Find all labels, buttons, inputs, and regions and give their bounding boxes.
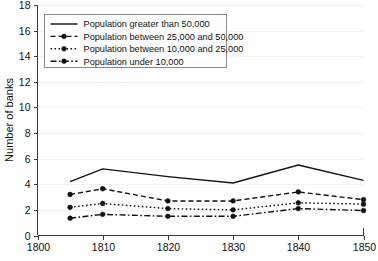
y-tick-label: 14 <box>19 50 31 62</box>
data-series-group <box>68 165 366 221</box>
data-point <box>296 190 301 195</box>
legend-label: Population between 25,000 and 50,000 <box>84 32 244 42</box>
y-tick-label: 4 <box>25 178 31 190</box>
data-point <box>361 202 366 207</box>
y-tick-label: 16 <box>19 25 31 37</box>
x-tick-label: 1830 <box>222 241 246 253</box>
line-chart: 024681012141618 180018101820183018401850… <box>0 0 378 261</box>
series-line <box>70 189 363 201</box>
chart-container: 024681012141618 180018101820183018401850… <box>0 0 378 261</box>
y-tick-label: 6 <box>25 153 31 165</box>
y-tick-label: 12 <box>19 76 31 88</box>
x-tick-label: 1800 <box>27 241 51 253</box>
series-line <box>70 165 363 183</box>
x-tick-label: 1820 <box>157 241 181 253</box>
legend-label: Population under 10,000 <box>84 57 184 67</box>
x-tick-label: 1840 <box>287 241 311 253</box>
y-tick-label: 2 <box>25 204 31 216</box>
data-point <box>166 206 171 211</box>
data-point <box>296 200 301 205</box>
data-point <box>68 216 73 221</box>
data-point <box>100 186 105 191</box>
data-point <box>68 205 73 210</box>
x-axis-ticks: 180018101820183018401850 <box>27 236 377 253</box>
data-point <box>100 212 105 217</box>
series-2 <box>68 186 366 203</box>
y-tick-label: 10 <box>19 101 31 113</box>
chart-legend: Population greater than 50,000Population… <box>45 15 244 68</box>
y-tick-label: 18 <box>19 0 31 11</box>
data-point <box>166 214 171 219</box>
data-point <box>361 208 366 213</box>
data-point <box>231 199 236 204</box>
data-point <box>231 214 236 219</box>
data-point <box>100 201 105 206</box>
x-tick-label: 1850 <box>353 241 377 253</box>
data-point <box>361 197 366 202</box>
y-axis-ticks: 024681012141618 <box>19 0 38 242</box>
legend-marker <box>62 34 67 39</box>
y-axis-title: Number of banks <box>3 78 15 162</box>
legend-marker <box>62 46 67 51</box>
legend-marker <box>62 59 67 64</box>
y-tick-label: 8 <box>25 127 31 139</box>
data-point <box>231 207 236 212</box>
series-1 <box>70 165 363 183</box>
series-4 <box>68 206 366 220</box>
data-point <box>296 206 301 211</box>
data-point <box>68 192 73 197</box>
data-point <box>166 199 171 204</box>
legend-label: Population between 10,000 and 25,000 <box>84 44 244 54</box>
legend-label: Population greater than 50,000 <box>84 19 210 29</box>
x-tick-label: 1810 <box>92 241 116 253</box>
